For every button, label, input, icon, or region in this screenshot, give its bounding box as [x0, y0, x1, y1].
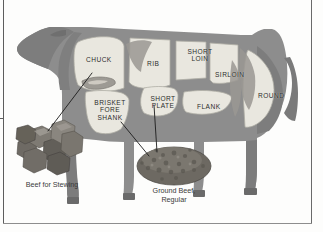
ground-beef-image: [137, 147, 211, 185]
cut-label-short-plate-line2: PLATE: [146, 102, 180, 109]
cut-label-short-plate: SHORT PLATE: [146, 95, 180, 110]
page-rule-right: [311, 0, 312, 224]
cut-label-chuck: CHUCK: [86, 56, 112, 64]
cut-label-rib: RIB: [147, 60, 159, 68]
caption-beef-for-stewing: Beef for Stewing: [13, 181, 91, 190]
cut-label-short-loin-line2: LOIN: [185, 55, 215, 62]
cow-hoof-rear-right: [244, 188, 257, 195]
cut-label-round: ROUND: [258, 92, 284, 100]
cow-hindleg-shading: [245, 140, 257, 194]
stew-cube-5: [23, 148, 47, 173]
cut-label-brisket-fore-shank: BRISKET FORE SHANK: [91, 99, 129, 121]
cow-hoof-front-right: [123, 193, 135, 200]
caption-ground-beef-line2: Regular: [137, 196, 211, 205]
cut-label-short-loin: SHORT LOIN: [185, 48, 215, 63]
cut-label-fore: FORE: [91, 106, 129, 113]
cut-label-sirloin: SIRLOIN: [215, 71, 245, 79]
page-rule-bottom: [3, 223, 312, 224]
cow-hoof-front-left: [67, 197, 79, 204]
caption-ground-beef-regular: Ground Beef, Regular: [137, 187, 211, 204]
cut-label-flank: FLANK: [197, 103, 221, 111]
beef-diagram-figure: CHUCK RIB SHORT LOIN SIRLOIN ROUND FLANK…: [4, 0, 311, 222]
beef-cuts-chart-page: CHUCK RIB SHORT LOIN SIRLOIN ROUND FLANK…: [0, 0, 323, 232]
cut-label-shank: SHANK: [91, 114, 129, 121]
